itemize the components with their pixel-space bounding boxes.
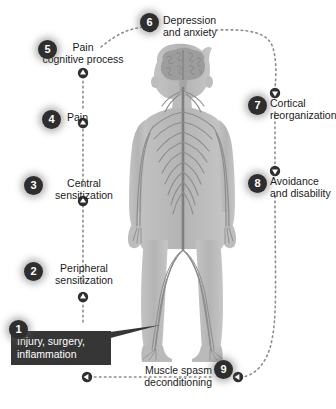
node-5-badge: 5: [38, 40, 57, 59]
connector-6-to-7: [216, 30, 276, 88]
arrow-into-1: [82, 372, 92, 382]
node-3-label: Central sensitization: [45, 178, 123, 201]
node-8-badge: 8: [248, 174, 267, 193]
node-4-label: Pain: [67, 112, 117, 124]
callout-pointer: [103, 325, 160, 340]
arrow-into-2: [78, 292, 88, 302]
node-9-badge: 9: [214, 360, 233, 379]
arrow-into-5: [78, 68, 88, 78]
node-4-badge: 4: [42, 110, 61, 129]
node-8-label: Avoidance and disability: [270, 176, 336, 199]
node-1-label: Injury, surgery, inflammation: [11, 331, 111, 365]
node-6-label: Depression and anxiety: [163, 15, 239, 38]
connector-8-to-9: [242, 196, 276, 377]
node-2-label: Peripheral sensitization: [45, 263, 123, 286]
chronic-pain-cycle-diagram: 1 Injury, surgery, inflammation 2 Periph…: [0, 0, 336, 409]
arrow-into-9: [233, 372, 243, 382]
arrow-markers: [78, 22, 280, 382]
node-6-badge: 6: [140, 13, 159, 32]
node-7-label: Cortical reorganization: [270, 98, 336, 121]
node-9-label: Muscle spasm deconditioning: [133, 365, 212, 388]
node-7-badge: 7: [248, 96, 267, 115]
node-3-badge: 3: [24, 176, 43, 195]
node-1-badge: 1: [9, 320, 28, 339]
node-2-badge: 2: [24, 262, 43, 281]
